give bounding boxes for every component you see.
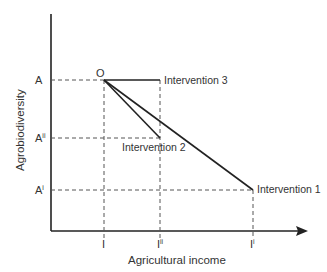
intervention-1-line	[104, 80, 253, 190]
x-tick-i: I	[102, 238, 105, 250]
tradeoff-diagram: O Intervention 3 Intervention 2 Interven…	[0, 0, 327, 272]
x-axis-title: Agricultural income	[128, 254, 226, 266]
intervention-2-line	[104, 80, 160, 138]
y-axis-title: Agrobiodiversity	[14, 89, 26, 171]
x-tick-iii: Iii	[157, 238, 164, 250]
y-tick-aii: Aii	[35, 132, 46, 144]
x-tick-ii: Ii	[250, 238, 255, 250]
y-tick-ai: Ai	[35, 184, 44, 196]
origin-point-label: O	[96, 67, 105, 79]
intervention-2-label: Intervention 2	[122, 141, 186, 153]
y-tick-a: A	[35, 74, 43, 86]
guide-lines	[51, 80, 253, 238]
intervention-3-label: Intervention 3	[164, 74, 228, 86]
intervention-1-label: Intervention 1	[257, 183, 321, 195]
